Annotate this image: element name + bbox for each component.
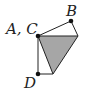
segment-ac-b xyxy=(38,21,71,36)
label-b: B xyxy=(65,2,77,20)
label-d: D xyxy=(23,74,36,91)
label-ac: A, C xyxy=(4,20,38,38)
geometry-diagram: A, C B D xyxy=(0,0,86,91)
shaded-triangle xyxy=(38,36,78,74)
point-d-dot xyxy=(36,72,41,77)
segment-b-right xyxy=(71,21,78,36)
